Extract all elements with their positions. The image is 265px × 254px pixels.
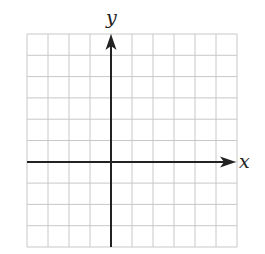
- grid: [27, 34, 237, 247]
- coordinate-plane: x y: [0, 0, 265, 254]
- y-axis-label: y: [105, 6, 117, 28]
- x-axis-label: x: [239, 150, 250, 172]
- y-axis: y: [105, 6, 117, 247]
- x-axis: x: [27, 150, 250, 172]
